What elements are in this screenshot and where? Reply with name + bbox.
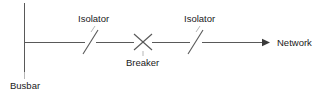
leader-line-isolator-right — [196, 26, 200, 32]
label-isolator-left: Isolator — [78, 13, 109, 24]
isolator-left-blade-icon — [83, 30, 98, 54]
leader-line-isolator-left — [91, 26, 95, 32]
breaker-cross-icon — [134, 34, 152, 50]
network-arrowhead-icon — [262, 39, 270, 46]
label-isolator-right: Isolator — [184, 13, 215, 24]
label-busbar: Busbar — [10, 80, 40, 91]
single-line-diagram: Isolator Isolator Breaker Busbar Network — [0, 0, 319, 98]
diagram-canvas — [0, 0, 319, 98]
label-breaker: Breaker — [126, 57, 159, 68]
label-network: Network — [277, 37, 312, 48]
isolator-right-blade-icon — [188, 30, 203, 54]
